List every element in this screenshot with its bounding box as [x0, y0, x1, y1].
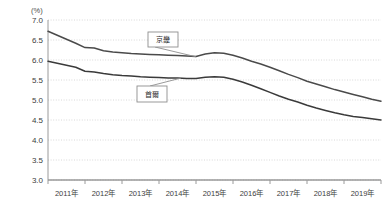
chart-background	[0, 0, 390, 217]
y-axis-tick-label: 5.0	[32, 96, 44, 105]
x-axis-tick-label: 2014年	[166, 188, 191, 198]
y-axis-tick-label: 4.0	[32, 136, 44, 145]
x-axis-tick-label: 2012年	[92, 188, 117, 198]
x-axis-tick-labels: 2011年2012年2013年2014年2015年2016年2017年2018年…	[55, 188, 375, 198]
y-axis-tick-label: 7.0	[32, 16, 44, 25]
x-axis-tick-label: 2017年	[277, 188, 302, 198]
y-axis-tick-label: 3.0	[32, 176, 44, 185]
callout-label: 首爾	[145, 90, 159, 99]
y-axis-tick-label: 4.5	[32, 116, 44, 125]
y-axis-tick-label: 5.5	[32, 76, 44, 85]
x-axis-tick-label: 2011年	[55, 188, 79, 198]
y-axis-tick-label: 3.5	[32, 156, 44, 165]
y-axis-tick-label: 6.0	[32, 56, 44, 65]
y-axis-tick-label: 6.5	[32, 36, 44, 45]
chart-canvas: (%) 3.03.54.04.55.05.56.06.57.0 2011年201…	[0, 0, 390, 217]
x-axis-tick-label: 2016年	[240, 188, 265, 198]
line-chart: (%) 3.03.54.04.55.05.56.06.57.0 2011年201…	[0, 0, 390, 217]
y-axis-unit-label: (%)	[31, 6, 43, 15]
y-axis-tick-labels: 3.03.54.04.55.05.56.06.57.0	[32, 16, 44, 185]
callout-label: 京畿	[156, 35, 170, 44]
x-axis-tick-label: 2019年	[351, 188, 376, 198]
x-axis-tick-label: 2013年	[129, 188, 154, 198]
x-axis-tick-label: 2018年	[314, 188, 339, 198]
x-axis-tick-label: 2015年	[203, 188, 228, 198]
